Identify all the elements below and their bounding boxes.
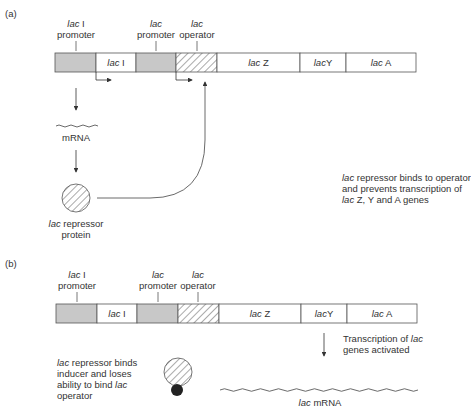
laci-promoter-label: lac I promoter [57,269,97,291]
panel-b-label: (b) [5,258,17,269]
laci-promoter-label: lac I promoter [56,18,96,40]
repression-note: lac repressor binds to operator and prev… [342,172,471,205]
lac-operator-segment [178,304,219,323]
repressor-protein-label: lac repressor protein [36,218,116,240]
lac-promoter-label: lac promoter [136,18,176,40]
lac-promoter-label: lac promoter [138,269,178,291]
laca-label: lac A [347,304,417,323]
lac-promoter-segment [136,53,176,72]
inducer-note: lac repressor binds inducer and loses ab… [57,357,137,401]
laci-transcription-start-arrow [96,72,111,80]
lac-transcription-start-arrow [176,72,192,80]
mrna-wave [56,125,98,127]
repressor-binding-arrow [97,82,205,198]
lac-mrna-label: lac mRNA [290,397,350,408]
lac-operator-label: lac operator [178,269,218,291]
inducer-icon [171,384,183,396]
lac-mrna-wave [220,389,418,392]
laci-promoter-segment [55,53,96,72]
transcription-activated-note: Transcription of lac genes activated [343,333,423,355]
laci-gene-label: lac I [96,53,136,72]
laca-label: lac A [346,53,416,72]
lac-operator-label: lac operator [177,18,217,40]
lacz-label: lac Z [219,304,301,323]
lacy-label: lacY [300,53,346,72]
repressor-protein-icon [164,358,192,386]
lacy-label: lacY [301,304,347,323]
lac-operator-segment [176,53,217,72]
lac-promoter-segment [137,304,178,323]
laci-gene-label: lac I [97,304,137,323]
lacz-label: lac Z [217,53,300,72]
panel-a-label: (a) [5,8,17,19]
laci-promoter-segment [56,304,97,323]
mrna-label: mRNA [56,132,96,143]
repressor-protein-icon [62,184,90,212]
